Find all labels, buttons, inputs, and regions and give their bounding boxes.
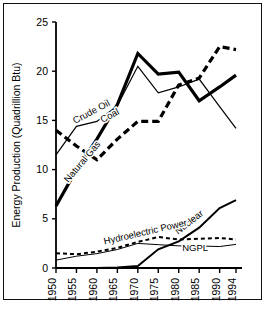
y-axis-tick-label: 25 bbox=[36, 16, 48, 28]
y-axis-tick-label: 0 bbox=[42, 262, 48, 274]
x-axis-tick-label: 1994 bbox=[226, 278, 238, 302]
energy-production-chart-figure: CoalCoalNatural GasNatural GasCrude OilC… bbox=[0, 0, 265, 317]
x-axis-tick-label: 1990 bbox=[210, 278, 222, 302]
x-axis-tick-label: 1970 bbox=[128, 278, 140, 302]
x-axis-tick-label: 1955 bbox=[66, 278, 78, 302]
y-axis-tick-label: 20 bbox=[36, 65, 48, 77]
x-axis-tick-label: 1960 bbox=[87, 278, 99, 302]
y-axis-tick-label: 15 bbox=[36, 114, 48, 126]
series-labels-group: CoalCoalNatural GasNatural GasCrude OilC… bbox=[61, 97, 208, 253]
x-axis-tick-label: 1950 bbox=[46, 278, 58, 302]
x-axis-tick-label: 1980 bbox=[169, 278, 181, 302]
x-axis-tick-label: 1965 bbox=[107, 278, 119, 302]
series-label-ngpl: NGPL bbox=[182, 242, 208, 253]
y-axis-title: Energy Production (Quadrillion Btu) bbox=[10, 62, 22, 227]
axis-title-group: Energy Production (Quadrillion Btu) bbox=[10, 62, 22, 227]
x-axis-tick-label: 1975 bbox=[148, 278, 160, 302]
y-axis-tick-label: 10 bbox=[36, 163, 48, 175]
series-line-hydroelectric-power bbox=[56, 237, 236, 254]
series-line-ngpl bbox=[56, 243, 236, 260]
x-axis-tick-label: 1985 bbox=[189, 278, 201, 302]
y-axis-tick-label: 5 bbox=[42, 212, 48, 224]
chart-plot-area: CoalCoalNatural GasNatural GasCrude OilC… bbox=[0, 0, 265, 317]
